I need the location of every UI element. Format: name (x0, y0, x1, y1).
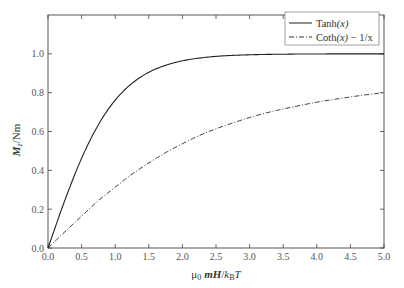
chart-canvas: 0.00.51.01.52.02.53.03.54.04.55.0 0.00.2… (0, 0, 404, 288)
x-tick-label: 4.0 (311, 251, 324, 262)
y-tick-label: 1.0 (32, 48, 45, 59)
legend-tanh-name: Tanh (316, 18, 338, 29)
legend: Tanh(x) Coth(x) − 1/x (285, 12, 379, 45)
series-langevin-line (48, 93, 384, 248)
y-tick-label: 0.4 (32, 165, 45, 176)
x-tick-label: 1.5 (143, 251, 156, 262)
legend-item-langevin: Coth(x) − 1/x (316, 32, 373, 44)
plot-border (48, 15, 384, 248)
x-tick-label: 3.0 (243, 251, 256, 262)
plot-frame (48, 15, 384, 248)
x-axis-label: μ0mH/kBT (191, 268, 241, 282)
x-tick-label: 4.5 (344, 251, 357, 262)
y-tick-label: 0.2 (32, 204, 45, 215)
y-axis-label: Mz/Nm (10, 123, 24, 157)
x-tick-label: 2.0 (176, 251, 189, 262)
x-axis-label-t: T (235, 268, 242, 280)
x-tick-label: 5.0 (378, 251, 391, 262)
x-axis-label-mh: mH (204, 268, 222, 280)
legend-tanh-arg: (x) (337, 18, 349, 30)
y-tick-label: 0.6 (32, 126, 45, 137)
series-tanh-line (48, 54, 384, 248)
legend-coth-suffix: − 1/x (348, 32, 373, 43)
x-tick-label: 2.5 (210, 251, 223, 262)
x-axis-label-mu-sub: 0 (197, 273, 201, 282)
legend-item-tanh: Tanh(x) (316, 18, 349, 30)
legend-coth-arg: (x) (336, 32, 348, 44)
x-tick-label: 0.5 (75, 251, 88, 262)
x-axis-ticks: 0.00.51.01.52.02.53.03.54.04.55.0 (42, 15, 391, 262)
y-tick-label: 0.8 (32, 87, 45, 98)
y-tick-label: 0.0 (32, 243, 45, 254)
series-layer (48, 54, 384, 248)
y-axis-label-unit: /Nm (10, 123, 22, 143)
x-tick-label: 1.0 (109, 251, 122, 262)
x-tick-label: 3.5 (277, 251, 290, 262)
legend-coth-name: Coth (316, 32, 337, 43)
